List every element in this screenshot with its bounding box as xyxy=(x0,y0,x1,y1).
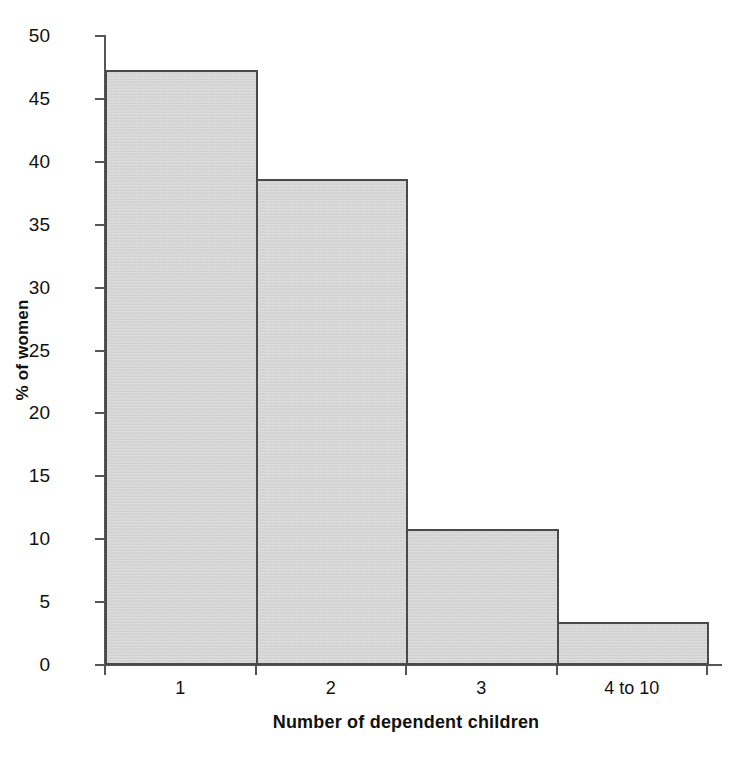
x-axis-tick xyxy=(405,665,407,675)
bar xyxy=(105,70,258,665)
y-axis-tick xyxy=(95,538,104,540)
y-axis-tick xyxy=(95,475,104,477)
y-axis-tick xyxy=(95,161,104,163)
y-axis-tick-label: 25 xyxy=(6,340,50,362)
y-axis-tick xyxy=(95,224,104,226)
y-axis-tick xyxy=(95,287,104,289)
x-axis-tick-label: 3 xyxy=(476,678,486,699)
y-axis-tick-label: 10 xyxy=(6,528,50,550)
y-axis-tick-label: 30 xyxy=(6,277,50,299)
x-axis-tick xyxy=(255,665,257,675)
y-axis-tick-label: 5 xyxy=(6,591,50,613)
y-axis-tick xyxy=(95,664,104,666)
x-axis-tick xyxy=(556,665,558,675)
y-axis-tick-label: 15 xyxy=(6,465,50,487)
x-axis-tick-label: 1 xyxy=(175,678,185,699)
y-axis-tick-label: 0 xyxy=(6,654,50,676)
y-axis-tick xyxy=(95,350,104,352)
x-axis-tick xyxy=(706,665,708,675)
y-axis-tick xyxy=(95,412,104,414)
y-axis-tick-label: 40 xyxy=(6,151,50,173)
y-axis-tick xyxy=(95,98,104,100)
bar xyxy=(406,529,559,665)
y-axis-tick xyxy=(95,35,104,37)
x-axis-tick xyxy=(104,665,106,675)
bar-chart: % of women 05101520253035404550 1234 to … xyxy=(0,0,737,761)
y-axis-tick-label: 20 xyxy=(6,402,50,424)
x-axis-tick-label: 4 to 10 xyxy=(604,678,659,699)
y-axis-tick xyxy=(95,601,104,603)
y-axis-tick-label: 35 xyxy=(6,214,50,236)
bar xyxy=(256,179,409,665)
x-axis-tick-label: 2 xyxy=(326,678,336,699)
y-axis-tick-label: 45 xyxy=(6,88,50,110)
y-axis-tick-label: 50 xyxy=(6,25,50,47)
x-axis-title: Number of dependent children xyxy=(105,712,707,733)
bar xyxy=(557,622,710,665)
